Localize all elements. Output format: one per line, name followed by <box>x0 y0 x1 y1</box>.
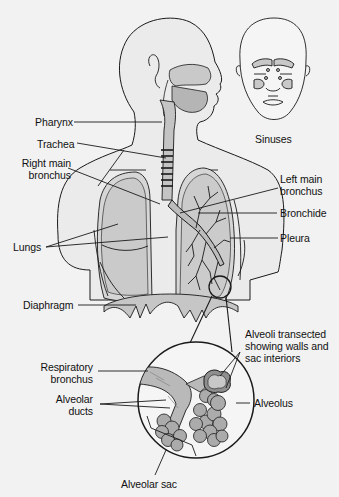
label-line: sac interiors <box>245 352 300 364</box>
label-line: showing walls and <box>245 340 329 352</box>
label-left-main-bronchus: Left main bronchus <box>280 173 322 197</box>
anatomy-illustration <box>0 0 339 497</box>
label-respiratory-bronchus: Respiratory bronchus <box>20 361 93 385</box>
label-line: bronchus <box>51 373 93 385</box>
label-alveolus: Alveolus <box>254 397 293 409</box>
alveoli-magnifier <box>138 342 254 458</box>
label-trachea: Trachea <box>37 138 74 150</box>
label-alveoli-transected: Alveoli transected showing walls and sac… <box>245 328 329 364</box>
label-diaphragm: Diaphragm <box>23 299 73 311</box>
label-line: bronchus <box>29 169 71 181</box>
label-line: Respiratory <box>40 361 93 373</box>
label-pharynx: Pharynx <box>35 116 73 128</box>
label-line: bronchus <box>280 185 322 197</box>
label-line: Right main <box>22 157 71 169</box>
label-sinuses: Sinuses <box>255 133 292 145</box>
label-alveolar-sac: Alveolar sac <box>121 478 177 490</box>
label-alveolar-ducts: Alveolar ducts <box>20 393 93 417</box>
sinuses-face <box>236 18 310 120</box>
right-lung <box>97 172 152 301</box>
label-pleura: Pleura <box>280 232 310 244</box>
label-right-main-bronchus: Right main bronchus <box>13 157 71 181</box>
respiratory-diagram: Pharynx Trachea Right main bronchus Lung… <box>0 0 339 497</box>
label-line: Alveoli transected <box>245 328 326 340</box>
label-line: ducts <box>68 405 93 417</box>
label-bronchide: Bronchide <box>280 207 326 219</box>
label-lungs: Lungs <box>13 241 41 253</box>
label-line: Alveolar <box>56 393 93 405</box>
label-line: Left main <box>280 173 322 185</box>
